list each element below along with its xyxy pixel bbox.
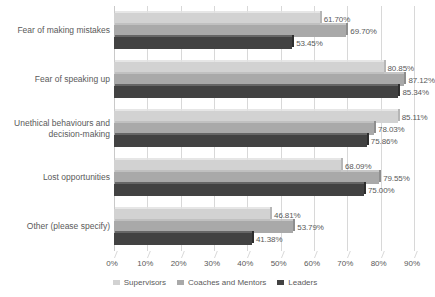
bar-top-face	[115, 84, 399, 86]
bar-3[interactable]	[114, 135, 367, 147]
bar-group: 61.70%69.70%53.45%	[114, 13, 414, 49]
bar-value-label: 75.86%	[367, 136, 398, 145]
legend-swatch-icon	[113, 280, 120, 285]
bar-value-label: 69.70%	[346, 26, 377, 35]
axis-tick-mark	[414, 251, 418, 258]
category-label: Fear of making mistakes	[0, 25, 110, 36]
legend-swatch-icon	[177, 280, 184, 285]
bar-group: 46.81%53.79%41.38%	[114, 209, 414, 245]
bar-row: 75.86%	[114, 135, 414, 147]
axis-tick-mark	[147, 251, 151, 258]
axis-tick-label: 20%	[164, 259, 194, 268]
bar-value-label: 41.38%	[252, 234, 283, 243]
category-label: Lost opportunities	[0, 172, 110, 183]
bar-value-label: 53.45%	[292, 38, 323, 47]
bar-row: 75.00%	[114, 184, 414, 196]
bar-value-label: 53.79%	[293, 222, 324, 231]
legend-label: Supervisors	[124, 278, 166, 287]
category-label: Fear of speaking up	[0, 74, 110, 85]
bar-value-label: 79.55%	[379, 173, 410, 182]
axis-tick-mark	[314, 251, 318, 258]
axis-tick-label: 10%	[130, 259, 160, 268]
legend-label: Coaches and Mentors	[188, 278, 266, 287]
bar-top-face	[115, 170, 380, 172]
bar-face	[114, 37, 292, 49]
bar-top-face	[115, 182, 365, 184]
bar-3[interactable]	[114, 184, 364, 196]
bar-top-face	[115, 231, 253, 233]
bar-group: 85.11%78.03%75.86%	[114, 111, 414, 147]
bar-top-face	[115, 23, 347, 25]
axis-tick-mark	[247, 251, 251, 258]
bar-value-label: 78.03%	[374, 124, 405, 133]
category-label-slot: Fear of making mistakes	[0, 6, 110, 55]
legend-item-supervisors[interactable]: Supervisors	[113, 278, 166, 287]
bar-top-face	[115, 72, 405, 74]
axis-tick-label: 50%	[264, 259, 294, 268]
axis-tick-label: 30%	[197, 259, 227, 268]
bar-top-face	[115, 60, 385, 62]
axis-tick-mark	[381, 251, 385, 258]
bar-group: 68.09%79.55%75.00%	[114, 160, 414, 196]
bar-top-face	[115, 133, 368, 135]
axis-tick-label: 90%	[397, 259, 427, 268]
bar-top-face	[115, 11, 321, 13]
axis-tick-label: 40%	[230, 259, 260, 268]
bar-value-label: 85.11%	[398, 112, 428, 121]
value-axis: 0%10%20%30%40%50%60%70%80%90%	[114, 251, 414, 269]
bar-3[interactable]	[114, 37, 292, 49]
plot-area: 61.70%69.70%53.45%80.85%87.12%85.34%85.1…	[114, 6, 414, 251]
bar-top-face	[115, 158, 342, 160]
bar-3[interactable]	[114, 86, 398, 98]
axis-tick-label: 70%	[330, 259, 360, 268]
category-label: Other (please specify)	[0, 221, 110, 232]
axis-tick-mark	[181, 251, 185, 258]
axis-tick-mark	[281, 251, 285, 258]
bar-face	[114, 86, 398, 98]
category-label-slot: Other (please specify)	[0, 202, 110, 251]
bar-top-face	[115, 35, 293, 37]
axis-tick-mark	[114, 251, 118, 258]
bar-3[interactable]	[114, 233, 252, 245]
axis-tick-label: 60%	[297, 259, 327, 268]
category-axis: Fear of making mistakesFear of speaking …	[0, 0, 112, 245]
chart-legend: SupervisorsCoaches and MentorsLeaders	[0, 278, 430, 287]
axis-tick-mark	[347, 251, 351, 258]
bar-row: 53.45%	[114, 37, 414, 49]
bar-face	[114, 233, 252, 245]
axis-tick-mark	[214, 251, 218, 258]
bar-value-label: 87.12%	[404, 75, 435, 84]
category-label-slot: Fear of speaking up	[0, 55, 110, 104]
category-label-slot: Unethical behaviours and decision-making	[0, 104, 110, 153]
bar-top-face	[115, 109, 399, 111]
legend-item-coaches-and-mentors[interactable]: Coaches and Mentors	[177, 278, 266, 287]
legend-swatch-icon	[277, 280, 284, 285]
gridline	[414, 6, 415, 251]
bar-row: 85.34%	[114, 86, 414, 98]
bar-face	[114, 135, 367, 147]
bar-top-face	[115, 207, 271, 209]
legend-item-leaders[interactable]: Leaders	[277, 278, 317, 287]
bar-group: 80.85%87.12%85.34%	[114, 62, 414, 98]
bar-face	[114, 184, 364, 196]
bar-value-label: 85.34%	[398, 87, 429, 96]
legend-label: Leaders	[288, 278, 317, 287]
bar-top-face	[115, 219, 294, 221]
category-label-slot: Lost opportunities	[0, 153, 110, 202]
category-label: Unethical behaviours and decision-making	[0, 118, 110, 140]
bar-row: 41.38%	[114, 233, 414, 245]
bar-value-label: 75.00%	[364, 185, 395, 194]
axis-tick-label: 0%	[97, 259, 127, 268]
axis-tick-label: 80%	[364, 259, 394, 268]
bar-top-face	[115, 121, 375, 123]
